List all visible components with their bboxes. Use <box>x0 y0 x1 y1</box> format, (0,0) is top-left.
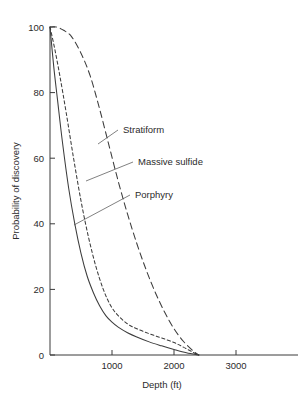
y-tick-label-60: 60 <box>33 153 44 164</box>
series-label-porphyry: Porphyry <box>135 189 173 200</box>
chart-background <box>0 0 305 401</box>
x-axis-title: Depth (ft) <box>142 379 182 390</box>
series-label-stratiform: Stratiform <box>123 124 164 135</box>
probability-of-discovery-chart: 100 80 60 40 20 0 1000 2000 3000 Depth (… <box>0 0 305 401</box>
x-tick-label-1000: 1000 <box>101 360 122 371</box>
x-tick-label-2000: 2000 <box>163 360 184 371</box>
y-tick-label-100: 100 <box>28 22 44 33</box>
y-tick-label-0: 0 <box>39 350 44 361</box>
figure-container: 100 80 60 40 20 0 1000 2000 3000 Depth (… <box>0 0 305 401</box>
y-axis-title: Probability of discovery <box>10 142 21 240</box>
y-tick-label-40: 40 <box>33 218 44 229</box>
x-tick-label-3000: 3000 <box>225 360 246 371</box>
y-tick-label-20: 20 <box>33 284 44 295</box>
series-label-massive-sulfide: Massive sulfide <box>138 156 203 167</box>
y-tick-label-80: 80 <box>33 87 44 98</box>
